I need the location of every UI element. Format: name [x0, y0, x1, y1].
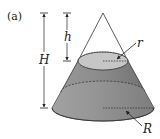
frustum-diagram: r R H h (a) [0, 0, 160, 139]
panel-label: (a) [7, 10, 22, 23]
label-H: H [38, 53, 50, 67]
label-h: h [64, 30, 72, 44]
label-R: R [142, 122, 152, 136]
label-r: r [137, 36, 144, 50]
